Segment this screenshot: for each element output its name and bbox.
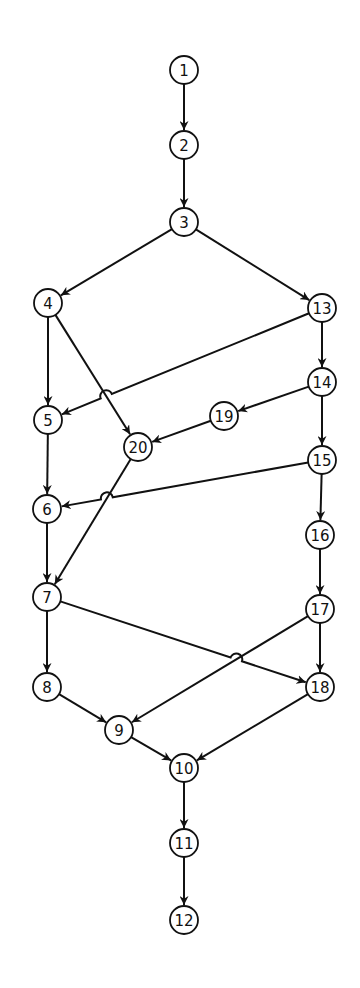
node-1: 1 xyxy=(170,56,198,84)
node-9: 9 xyxy=(105,716,133,744)
node-6: 6 xyxy=(33,495,61,523)
node-label: 9 xyxy=(114,722,124,740)
node-label: 18 xyxy=(310,679,329,697)
node-13: 13 xyxy=(308,294,336,322)
node-label: 6 xyxy=(42,501,52,519)
node-8: 8 xyxy=(33,673,61,701)
node-12: 12 xyxy=(170,906,198,934)
edge-8-to-9 xyxy=(59,694,106,722)
node-11: 11 xyxy=(170,829,198,857)
node-label: 4 xyxy=(43,295,53,313)
edge-9-to-10 xyxy=(131,737,171,760)
node-label: 1 xyxy=(179,62,189,80)
node-20: 20 xyxy=(124,433,152,461)
node-2: 2 xyxy=(170,131,198,159)
node-label: 20 xyxy=(128,439,147,457)
node-label: 17 xyxy=(310,601,329,619)
edge-19-to-20 xyxy=(152,421,211,442)
edge-20-to-7 xyxy=(55,459,131,584)
flow-graph: 1234567891011121314151617181920 xyxy=(0,0,360,988)
node-label: 14 xyxy=(312,374,331,392)
node-label: 2 xyxy=(179,137,189,155)
node-19: 19 xyxy=(210,402,238,430)
edge-3-to-4 xyxy=(61,229,172,295)
node-10: 10 xyxy=(170,754,198,782)
node-label: 10 xyxy=(174,760,193,778)
node-18: 18 xyxy=(306,673,334,701)
node-label: 15 xyxy=(312,452,331,470)
edge-3-to-13 xyxy=(196,229,309,300)
node-7: 7 xyxy=(33,583,61,611)
node-5: 5 xyxy=(34,406,62,434)
node-label: 11 xyxy=(174,835,193,853)
node-label: 13 xyxy=(312,300,331,318)
node-17: 17 xyxy=(306,595,334,623)
edge-5-to-6 xyxy=(47,434,48,494)
node-label: 12 xyxy=(174,912,193,930)
node-3: 3 xyxy=(170,208,198,236)
node-4: 4 xyxy=(34,289,62,317)
edge-15-to-6 xyxy=(62,462,308,506)
node-label: 5 xyxy=(43,412,53,430)
node-label: 3 xyxy=(179,214,189,232)
node-label: 19 xyxy=(214,408,233,426)
edge-14-to-19 xyxy=(238,387,309,411)
edge-7-to-18 xyxy=(60,601,305,682)
node-14: 14 xyxy=(308,368,336,396)
edge-18-to-10 xyxy=(197,694,308,760)
edge-17-to-9 xyxy=(132,616,308,722)
edge-15-to-16 xyxy=(320,474,321,520)
node-16: 16 xyxy=(306,521,334,549)
edge-4-to-20 xyxy=(55,315,130,434)
node-15: 15 xyxy=(308,446,336,474)
node-label: 8 xyxy=(42,679,52,697)
node-label: 7 xyxy=(42,589,52,607)
node-label: 16 xyxy=(310,527,329,545)
